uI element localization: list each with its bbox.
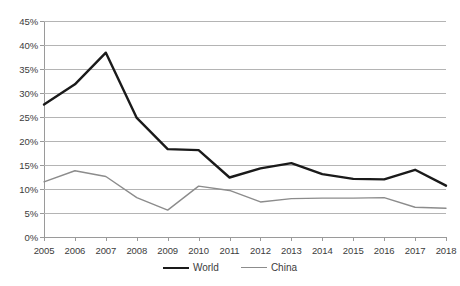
- x-tick-mark: [353, 237, 354, 241]
- y-axis-tick-label: 20%: [19, 136, 38, 147]
- x-tick-mark: [291, 237, 292, 241]
- x-axis-tick-label-2010: 2010: [188, 245, 209, 256]
- x-tick-mark: [260, 237, 261, 241]
- x-axis-tick-label-2007: 2007: [95, 245, 116, 256]
- x-axis-tick-label-2017: 2017: [405, 245, 426, 256]
- series-lines: [44, 21, 446, 237]
- y-axis-tick-label: 40%: [19, 40, 38, 51]
- x-axis-tick-label-2018: 2018: [436, 245, 457, 256]
- y-axis-tick-label: 30%: [19, 88, 38, 99]
- legend-label-china: China: [271, 262, 297, 273]
- gridline-0pct: [44, 237, 446, 238]
- x-tick-mark: [106, 237, 107, 241]
- x-axis-tick-label-2008: 2008: [126, 245, 147, 256]
- x-tick-mark: [199, 237, 200, 241]
- x-axis-tick-label-2013: 2013: [281, 245, 302, 256]
- x-tick-mark: [44, 237, 45, 241]
- x-tick-mark: [75, 237, 76, 241]
- y-axis-tick-label: 5%: [24, 208, 38, 219]
- x-axis-tick-label-2016: 2016: [374, 245, 395, 256]
- x-tick-mark: [415, 237, 416, 241]
- x-tick-mark: [446, 237, 447, 241]
- series-line-china: [44, 171, 446, 210]
- x-axis-tick-label-2011: 2011: [220, 245, 240, 256]
- legend-line-world-icon: [163, 267, 189, 269]
- y-axis-tick-label: 45%: [19, 16, 38, 27]
- y-axis-tick-label: 35%: [19, 64, 38, 75]
- chart-legend: World China: [0, 262, 460, 273]
- x-tick-mark: [137, 237, 138, 241]
- series-line-world: [44, 53, 446, 186]
- y-axis-tick-label: 15%: [19, 160, 38, 171]
- x-axis-tick-label-2015: 2015: [343, 245, 364, 256]
- legend-item-world: World: [163, 262, 219, 273]
- x-axis-tick-label-2014: 2014: [312, 245, 333, 256]
- x-axis-tick-label-2006: 2006: [65, 245, 86, 256]
- y-axis-tick-label: 25%: [19, 112, 38, 123]
- y-axis-tick-label: 10%: [19, 184, 38, 195]
- x-axis-tick-label-2005: 2005: [34, 245, 55, 256]
- legend-label-world: World: [193, 262, 219, 273]
- legend-item-china: China: [241, 262, 297, 273]
- legend-line-china-icon: [241, 267, 267, 268]
- x-axis-tick-label-2012: 2012: [250, 245, 271, 256]
- plot-area: 0%5%10%15%20%25%30%35%40%45% 20052006200…: [44, 21, 446, 237]
- y-axis-tick-label: 0%: [24, 232, 38, 243]
- x-tick-mark: [168, 237, 169, 241]
- x-tick-mark: [230, 237, 231, 241]
- x-tick-mark: [384, 237, 385, 241]
- line-chart: 0%5%10%15%20%25%30%35%40%45% 20052006200…: [0, 0, 460, 286]
- x-axis-tick-label-2009: 2009: [157, 245, 178, 256]
- x-tick-mark: [322, 237, 323, 241]
